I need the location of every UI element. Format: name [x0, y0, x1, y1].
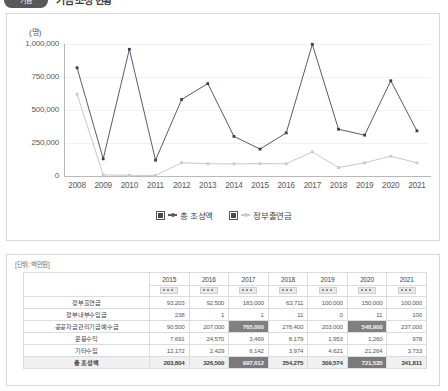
table-row-label: 운용수익 [24, 333, 150, 345]
table-cell: 90,500 [150, 321, 190, 333]
sort-icon[interactable] [279, 287, 297, 294]
series-marker [285, 132, 288, 135]
page-title: 기금 조성 현황 [56, 0, 112, 7]
legend-checkbox[interactable] [156, 211, 165, 220]
legend-label: 정부출연금 [253, 209, 292, 221]
chart-series-layer [7, 14, 441, 214]
table-sort-control-2017[interactable] [229, 286, 269, 297]
legend-color-swatch [241, 214, 250, 216]
table-cell: 1 [189, 309, 229, 321]
table-unit-note: [단위: 백만원] [15, 259, 50, 269]
table-cell: 63,711 [268, 297, 308, 309]
table-row: 정부내부수입금2381111011100 [24, 309, 427, 321]
table-year-header-2020: 2020 [347, 273, 387, 286]
sort-icon[interactable] [160, 287, 178, 294]
table-year-header-2018: 2018 [268, 273, 308, 286]
table-cell: 12,172 [150, 345, 190, 357]
table-cell: 8,179 [268, 333, 308, 345]
table-year-header-2015: 2015 [150, 273, 190, 286]
series-marker [311, 150, 314, 153]
table-row: 정부출연금93,20392,500183,00063,711100,000150… [24, 297, 427, 309]
table-cell: 721,535 [347, 357, 387, 369]
series-marker [285, 162, 288, 165]
series-marker [363, 161, 366, 164]
table-cell: 207,000 [189, 321, 229, 333]
series-marker [128, 48, 131, 51]
table-cell: 1 [229, 309, 269, 321]
table-cell: 3,974 [268, 345, 308, 357]
sort-icon[interactable] [358, 287, 376, 294]
table-year-header-2019: 2019 [308, 273, 348, 286]
series-marker [76, 66, 79, 69]
legend-color-swatch [168, 214, 177, 216]
legend-label: 총 조성액 [180, 209, 213, 221]
table-cell: 3,469 [229, 333, 269, 345]
table-cell: 978 [387, 333, 427, 345]
table-year-header-2021: 2021 [387, 273, 427, 286]
table-cell: 100,000 [387, 297, 427, 309]
table-cell: 100,000 [308, 297, 348, 309]
chart-legend: 총 조성액정부출연금 [7, 209, 441, 221]
table-year-header-2017: 2017 [229, 273, 269, 286]
table-cell: 765,000 [229, 321, 269, 333]
legend-item-1[interactable]: 정부출연금 [229, 209, 292, 221]
series-marker [233, 162, 236, 165]
header-badge-label: 기금 [4, 0, 48, 8]
series-marker [128, 174, 131, 177]
sort-icon[interactable] [398, 287, 416, 294]
table-sort-control-2020[interactable] [347, 286, 387, 297]
table-cell: 2,429 [189, 345, 229, 357]
series-marker [259, 148, 262, 151]
series-marker [76, 93, 79, 96]
series-marker [311, 43, 314, 46]
table-cell: 4,621 [308, 345, 348, 357]
table-corner-cell [24, 273, 150, 297]
table-sort-control-2016[interactable] [189, 286, 229, 297]
series-marker [206, 162, 209, 165]
series-marker [337, 166, 340, 169]
fund-composition-table: 2015201620172018201920202021 정부출연금93,203… [23, 272, 427, 369]
series-marker [102, 157, 105, 160]
series-marker [154, 159, 157, 162]
table-sort-control-2021[interactable] [387, 286, 427, 297]
table-row: 운용수익7,69124,5703,4698,1791,9531,260978 [24, 333, 427, 345]
table-sort-control-2015[interactable] [150, 286, 190, 297]
table-cell: 1,953 [308, 333, 348, 345]
legend-item-0[interactable]: 총 조성액 [156, 209, 213, 221]
table-sort-control-2019[interactable] [308, 286, 348, 297]
table-cell: 203,804 [150, 357, 190, 369]
table-row: 기타수입12,1722,4296,1423,9744,62121,2643,73… [24, 345, 427, 357]
header-badge: 기금 [4, 0, 48, 8]
sort-icon[interactable] [239, 287, 257, 294]
table-row: 총 조성액203,804326,500997,612354,275309,574… [24, 357, 427, 369]
table-cell: 6,142 [229, 345, 269, 357]
table-row-label: 공공자금관리기금예수금 [24, 321, 150, 333]
table-cell: 0 [308, 309, 348, 321]
table-year-header-row: 2015201620172018201920202021 [24, 273, 427, 286]
series-marker [389, 155, 392, 158]
series-marker [416, 129, 419, 132]
series-marker [180, 98, 183, 101]
table-cell: 1,260 [347, 333, 387, 345]
table-cell: 150,000 [347, 297, 387, 309]
table-sort-control-2018[interactable] [268, 286, 308, 297]
sort-icon[interactable] [319, 287, 337, 294]
chart-panel: (명) 0250,000500,000750,0001,000,000 2008… [6, 13, 440, 241]
table-year-header-2016: 2016 [189, 273, 229, 286]
table-row-label: 정부내부수입금 [24, 309, 150, 321]
series-marker [259, 162, 262, 165]
series-marker [337, 128, 340, 131]
sort-icon[interactable] [200, 287, 218, 294]
series-marker [416, 161, 419, 164]
legend-checkbox[interactable] [229, 211, 238, 220]
page-header: 기금 기금 조성 현황 [0, 0, 448, 11]
series-marker [389, 79, 392, 82]
table-row-label: 정부출연금 [24, 297, 150, 309]
table-cell: 203,000 [308, 321, 348, 333]
table-cell: 24,570 [189, 333, 229, 345]
series-marker [363, 134, 366, 137]
table-cell: 997,612 [229, 357, 269, 369]
table-cell: 11 [268, 309, 308, 321]
table-cell: 354,275 [268, 357, 308, 369]
table-row: 공공자금관리기금예수금90,500207,000765,000278,40020… [24, 321, 427, 333]
